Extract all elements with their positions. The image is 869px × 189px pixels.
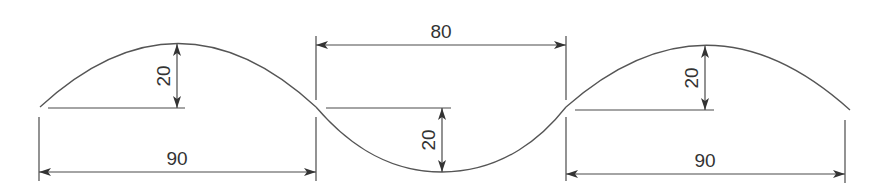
right-height-label: 20	[681, 67, 702, 88]
middle-section-dimensions: 80 20	[316, 21, 566, 172]
right-section-dimensions: 90 20	[566, 46, 845, 183]
wave-profile-drawing: 90 20 80 20 90 20	[0, 0, 869, 189]
left-section-dimensions: 90 20	[39, 44, 316, 181]
middle-valley-arc	[316, 107, 566, 172]
right-span-label: 90	[694, 150, 715, 171]
middle-span-label: 80	[430, 21, 451, 42]
right-crest-arc	[566, 45, 850, 110]
left-height-label: 20	[153, 65, 174, 86]
middle-depth-label: 20	[418, 129, 439, 150]
left-span-label: 90	[166, 148, 187, 169]
left-crest-arc	[40, 44, 316, 108]
